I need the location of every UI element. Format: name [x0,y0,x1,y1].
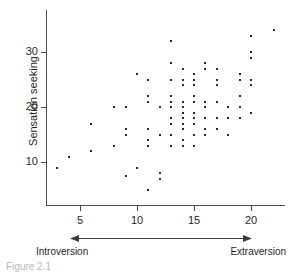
data-point [216,117,218,119]
annotation-label-extraversion: Extraversion [230,246,286,257]
x-tick-10 [137,205,138,211]
data-point [227,117,229,119]
data-point [90,123,92,125]
data-point [273,29,275,31]
data-point [193,73,195,75]
data-point [170,134,172,136]
data-point [170,95,172,97]
y-axis-line [46,10,47,206]
x-tick-label-20: 20 [236,215,266,226]
data-point [204,117,206,119]
x-tick-20 [251,205,252,211]
data-point [182,128,184,130]
data-point [56,167,58,169]
data-point [125,106,127,108]
data-point [159,106,161,108]
data-point [250,112,252,114]
data-point [193,112,195,114]
data-point [125,128,127,130]
data-point [193,117,195,119]
data-point [204,62,206,64]
data-point [147,145,149,147]
data-point [204,68,206,70]
double-headed-arrow-icon [70,234,252,243]
data-point [147,139,149,141]
data-point [182,106,184,108]
y-tick-30 [41,52,47,53]
x-tick-label-5: 5 [65,215,95,226]
data-point [113,145,115,147]
figure-caption: Figure 2.1 [6,261,51,272]
data-point [159,172,161,174]
annotation-label-introversion: Introversion [36,246,88,257]
data-point [182,139,184,141]
data-point [147,128,149,130]
data-point [68,156,70,158]
y-tick-label-30: 30 [16,46,38,57]
data-point [216,128,218,130]
data-point [239,79,241,81]
data-point [125,134,127,136]
data-point [113,106,115,108]
x-tick-15 [194,205,195,211]
data-point [182,68,184,70]
data-point [193,145,195,147]
y-tick-label-10: 10 [16,156,38,167]
data-point [170,123,172,125]
data-point [136,167,138,169]
data-point [147,79,149,81]
data-point [204,128,206,130]
x-tick-label-15: 15 [179,215,209,226]
data-point [193,79,195,81]
data-point [239,117,241,119]
data-point [182,79,184,81]
data-point [170,106,172,108]
data-point [147,189,149,191]
data-point [250,57,252,59]
y-tick-10 [41,162,47,163]
data-point [250,79,252,81]
data-point [182,112,184,114]
data-point [204,101,206,103]
data-point [170,79,172,81]
data-point [125,175,127,177]
data-point [182,84,184,86]
data-point [250,51,252,53]
data-point [170,101,172,103]
data-point [216,101,218,103]
data-point [90,150,92,152]
data-point [204,106,206,108]
data-point [239,106,241,108]
data-point [170,62,172,64]
data-point [182,123,184,125]
data-point [170,145,172,147]
x-tick-5 [80,205,81,211]
data-point [216,68,218,70]
data-point [159,178,161,180]
data-point [147,95,149,97]
data-point [147,101,149,103]
data-point [182,145,184,147]
x-tick-label-10: 10 [122,215,152,226]
data-point [250,84,252,86]
data-point [182,117,184,119]
data-point [159,134,161,136]
data-point [170,40,172,42]
data-point [136,73,138,75]
data-point [170,117,172,119]
data-point [193,84,195,86]
data-point [227,106,229,108]
data-point [239,73,241,75]
data-point [204,134,206,136]
y-tick-label-20: 20 [16,101,38,112]
x-axis-line [46,205,285,206]
data-point [182,101,184,103]
data-point [216,79,218,81]
data-point [193,95,195,97]
data-point [239,95,241,97]
y-tick-20 [41,107,47,108]
data-point [250,35,252,37]
data-point [227,134,229,136]
